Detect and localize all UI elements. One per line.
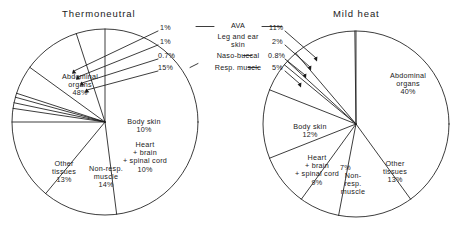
right-leader-naso xyxy=(285,59,305,75)
center-label-leg-ear-skin-line2: skin xyxy=(196,41,280,49)
right-label-other-tissues: Other tissues 13% xyxy=(369,160,421,185)
right-label-non-resp-muscle: Non- resp. muscle xyxy=(338,172,368,197)
left-label-body-skin: Body skin 10% xyxy=(112,118,176,134)
right-label-abdominal-organs: Abdominal organs 40% xyxy=(366,72,450,97)
pie-chart-figure: Thermoneutral Mild heat xyxy=(0,0,456,229)
right-pct-naso: 0.8% xyxy=(268,51,285,60)
left-pct-resp: 15% xyxy=(158,63,173,72)
left-pct-ava: 1% xyxy=(160,23,171,32)
right-leader-ava xyxy=(285,31,316,58)
right-pct-leg-ear: 2% xyxy=(272,37,283,46)
left-divider-ava-end xyxy=(13,108,105,122)
right-label-body-skin: Body skin 12% xyxy=(277,123,343,139)
center-label-resp-muscle: Resp. muscle xyxy=(196,64,280,72)
right-leader-legear xyxy=(285,45,310,67)
right-divider-legear-end xyxy=(296,53,356,124)
right-pct-non-resp: 7% xyxy=(340,163,351,172)
right-divider-bodyskin-end xyxy=(270,90,356,124)
right-pct-resp: 5% xyxy=(272,63,283,72)
left-pct-naso: 0.7% xyxy=(158,51,175,60)
center-label-ava: AVA xyxy=(206,22,270,30)
left-label-other-tissues: Other tissues 13% xyxy=(38,160,90,185)
right-divider-resp-end xyxy=(284,65,356,124)
right-leader-resp xyxy=(285,71,300,84)
left-pct-leg-ear: 1% xyxy=(160,37,171,46)
left-leader-ava xyxy=(74,31,158,71)
right-pct-ava: 11% xyxy=(269,23,283,32)
right-divider-naso-end xyxy=(287,61,356,124)
left-label-abdominal-organs: Abdominal organs 48% xyxy=(38,73,122,98)
left-divider-naso-end xyxy=(15,97,105,122)
